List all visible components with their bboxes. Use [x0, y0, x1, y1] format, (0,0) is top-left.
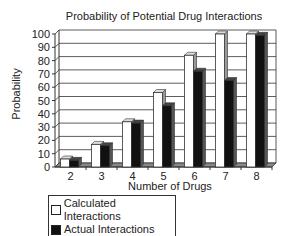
svg-text:5: 5: [160, 170, 166, 182]
svg-text:20: 20: [38, 134, 50, 146]
svg-text:90: 90: [38, 41, 50, 53]
svg-text:2: 2: [67, 170, 73, 182]
svg-text:6: 6: [191, 170, 197, 182]
svg-text:10: 10: [38, 148, 50, 160]
svg-text:60: 60: [38, 81, 50, 93]
legend-item-calculated: Calculated Interactions: [51, 197, 173, 223]
svg-text:100: 100: [32, 28, 50, 40]
svg-text:0: 0: [44, 161, 50, 173]
svg-text:8: 8: [253, 170, 259, 182]
svg-text:30: 30: [38, 121, 50, 133]
svg-text:4: 4: [129, 170, 135, 182]
svg-text:3: 3: [98, 170, 104, 182]
svg-text:80: 80: [38, 55, 50, 67]
legend: Calculated Interactions Actual Interacti…: [48, 195, 176, 236]
black-swatch-icon: [51, 225, 61, 235]
legend-item-actual: Actual Interactions: [51, 223, 173, 236]
white-swatch-icon: [51, 205, 61, 215]
svg-text:40: 40: [38, 108, 50, 120]
svg-text:50: 50: [38, 95, 50, 107]
svg-text:70: 70: [38, 68, 50, 80]
svg-text:7: 7: [222, 170, 228, 182]
